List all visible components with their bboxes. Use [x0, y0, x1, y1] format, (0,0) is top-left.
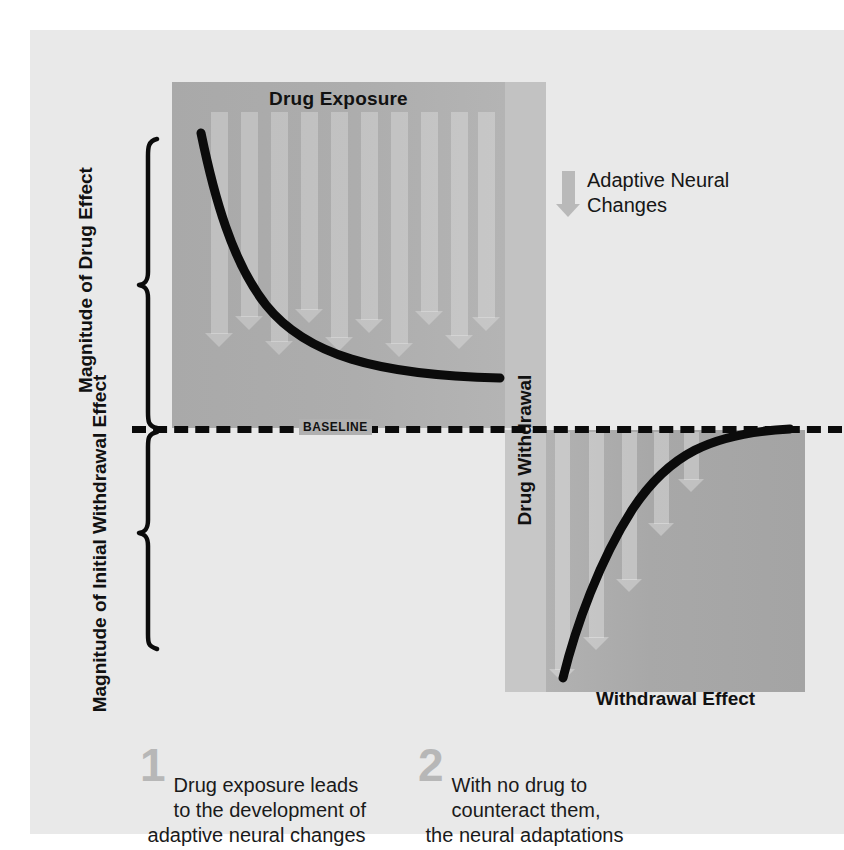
adaptive-arrow-icon [241, 112, 258, 317]
adaptive-arrow-icon [301, 112, 318, 310]
down-arrow-icon [562, 171, 575, 205]
caption-row: 1 Drug exposure leads to the development… [140, 748, 830, 850]
adaptive-arrow-icon [654, 432, 669, 524]
adaptive-arrow-icon [555, 432, 570, 670]
caption-hang-line: adaptive neural changes [148, 823, 366, 848]
adaptive-arrow-icon [684, 432, 699, 480]
caption-hang-line: the neural adaptations [426, 823, 624, 848]
caption-lines: Drug exposure leads to the development o… [174, 774, 366, 821]
baseline-dashed-line [132, 426, 842, 433]
caption-number: 1 [140, 746, 166, 784]
adaptive-arrow-icon [622, 432, 637, 580]
caption-item: 1 Drug exposure leads to the development… [140, 748, 366, 850]
adaptive-arrow-icon [478, 112, 495, 318]
adaptive-arrow-icon [361, 112, 378, 320]
drug-withdrawal-label-text: Drug Withdrawal [515, 375, 537, 526]
adaptive-arrow-icon [421, 112, 438, 312]
caption-number: 2 [418, 746, 444, 784]
withdrawal-effect-title: Withdrawal Effect [546, 688, 805, 710]
adaptive-arrow-icon [451, 112, 468, 336]
withdrawal-effect-panel [546, 430, 805, 692]
drug-withdrawal-label: Drug Withdrawal [505, 345, 546, 555]
adaptive-arrow-icon [589, 432, 604, 638]
adaptive-arrow-icon [391, 112, 408, 344]
legend-label: Adaptive Neural Changes [587, 168, 729, 218]
caption-lines: With no drug to counteract them, [452, 774, 601, 821]
baseline-label: BASELINE [299, 419, 372, 435]
axis-label-drug-effect-text: Magnitude of Drug Effect [75, 167, 97, 393]
caption-body: With no drug to counteract them, the neu… [452, 748, 624, 850]
adaptive-arrow-icon [331, 112, 348, 338]
adaptive-arrow-icon [211, 112, 228, 334]
drug-exposure-title: Drug Exposure [172, 88, 505, 110]
axis-label-withdrawal-effect-text: Magnitude of Initial Withdrawal Effect [89, 374, 112, 712]
caption-body: Drug exposure leads to the development o… [174, 748, 366, 850]
adaptive-neural-changes-legend: Adaptive Neural Changes [562, 168, 729, 218]
caption-item: 2 With no drug to counteract them, the n… [418, 748, 624, 850]
adaptive-arrow-icon [271, 112, 288, 342]
axis-label-withdrawal-effect: Magnitude of Initial Withdrawal Effect [62, 430, 138, 656]
